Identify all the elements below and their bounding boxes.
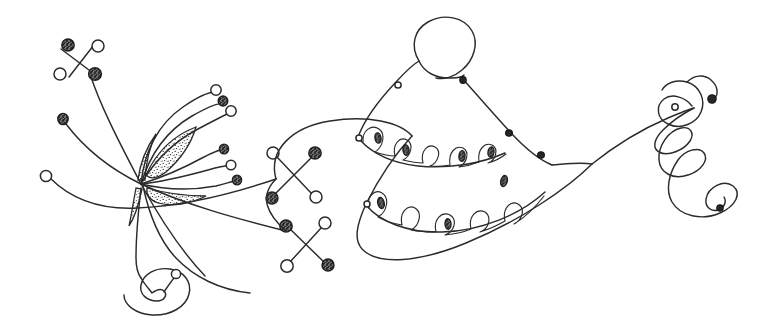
jack-node-dark-2 [89, 68, 102, 80]
line-art-drawing [0, 0, 783, 334]
bell-node-1 [356, 135, 362, 141]
node-open-spiral-tail [171, 269, 180, 278]
node-open-upper [211, 85, 221, 95]
node-speckled-mid-2 [232, 175, 241, 185]
node-open-left [40, 170, 51, 181]
background [0, 0, 783, 334]
node-open-upper-2 [226, 106, 236, 116]
jack-node-open-2 [281, 260, 293, 272]
jack-node-dark-1 [309, 147, 321, 159]
jack-node-dark-2 [322, 259, 334, 271]
node-speckled-upper [218, 96, 228, 106]
jack-node-open-1 [319, 217, 331, 229]
illustration-canvas [0, 0, 783, 334]
loop-ornament-3 [458, 150, 465, 161]
node-speckled-left [58, 113, 68, 124]
bell-node-6 [364, 201, 370, 207]
node-filled-coil [708, 95, 716, 103]
node-open-coil [672, 104, 678, 110]
jack-node-open-2 [310, 191, 322, 203]
bell-node-4 [506, 130, 513, 136]
jack-node-open-2 [54, 68, 66, 80]
bell-node-2 [395, 82, 401, 88]
jack-node-open-1 [92, 40, 104, 52]
node-open-mid [226, 160, 236, 170]
bell-node-3 [460, 77, 466, 84]
loop-ornament-6 [445, 219, 452, 230]
bell-node-5 [538, 152, 545, 158]
node-filled-coil-inner [717, 205, 723, 211]
node-speckled-mid [219, 144, 228, 154]
jack-node-dark-1 [62, 39, 74, 51]
